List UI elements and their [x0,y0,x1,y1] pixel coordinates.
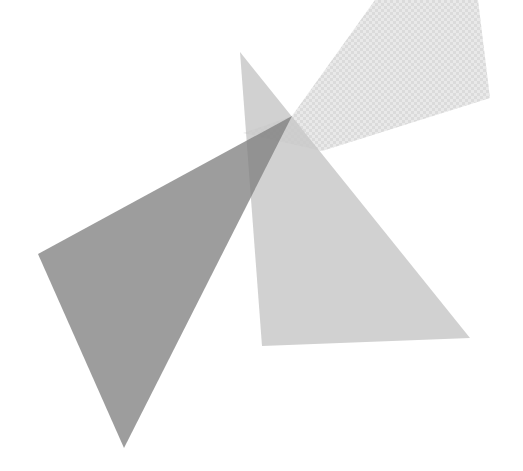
dark-triangle [38,116,292,448]
triangle-artwork [0,0,523,471]
geometric-composition [0,0,523,471]
